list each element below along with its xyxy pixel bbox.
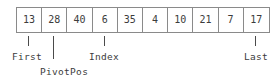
pointer-label-pivotpos: PivotPos [40, 67, 88, 77]
pointer-tick-index [104, 36, 105, 46]
array-cell-7: 21 [193, 8, 218, 32]
array-cell-6: 10 [168, 8, 193, 32]
pointer-tick-first [28, 36, 29, 46]
array-cell-4: 35 [118, 8, 143, 32]
array-cell-2: 40 [67, 8, 92, 32]
pointer-tick-last [255, 36, 256, 46]
array-container: 13284063541021717 [16, 7, 270, 33]
array-cell-5: 4 [143, 8, 168, 32]
pointer-label-last: Last [244, 52, 268, 62]
array-cell-8: 7 [219, 8, 244, 32]
pointer-tick-pivotpos [53, 36, 54, 59]
pointer-label-index: Index [89, 52, 119, 62]
array-pointer-diagram: 13284063541021717 FirstPivotPosIndexLast [0, 0, 279, 84]
array-cell-0: 13 [17, 8, 42, 32]
array-cell-1: 28 [42, 8, 67, 32]
pointer-label-first: First [12, 52, 42, 62]
array-cell-3: 6 [93, 8, 118, 32]
array-cell-9: 17 [244, 8, 269, 32]
